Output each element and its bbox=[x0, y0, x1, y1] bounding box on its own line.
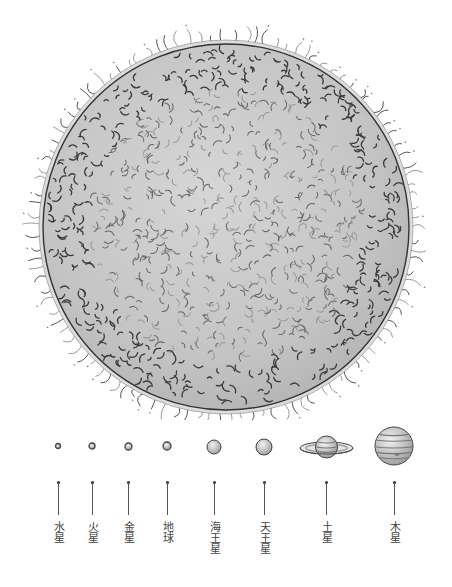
jupiter-icon bbox=[373, 425, 415, 467]
mars-icon bbox=[87, 441, 97, 451]
planet-label-mars: 火星 bbox=[86, 521, 98, 543]
planet-label-uranus: 天王星 bbox=[258, 521, 270, 554]
earth-icon bbox=[161, 440, 173, 452]
planet-label-saturn: 土星 bbox=[320, 521, 332, 543]
neptune-icon bbox=[205, 438, 223, 456]
planet-mars bbox=[87, 441, 97, 451]
leader-line bbox=[394, 482, 395, 515]
uranus-icon bbox=[254, 437, 274, 457]
leader-line bbox=[167, 482, 168, 515]
planet-label-earth: 地球 bbox=[161, 521, 173, 543]
diagram-stage: 水星 火星 金星 地球 海王星 天王星 土星 木星 bbox=[0, 0, 452, 587]
planet-venus bbox=[123, 441, 134, 452]
planet-uranus bbox=[254, 437, 274, 457]
mercury-icon bbox=[53, 441, 63, 451]
planet-mercury bbox=[53, 441, 63, 451]
leader-line bbox=[264, 482, 265, 515]
sun-icon bbox=[0, 0, 452, 420]
leader-line bbox=[326, 482, 327, 515]
leader-line bbox=[92, 482, 93, 515]
planet-label-mercury: 水星 bbox=[52, 521, 64, 543]
planet-neptune bbox=[205, 438, 223, 456]
planet-saturn bbox=[299, 434, 354, 460]
leader-line bbox=[128, 482, 129, 515]
saturn-icon bbox=[299, 434, 354, 460]
planet-jupiter bbox=[373, 425, 415, 467]
planet-earth bbox=[161, 440, 173, 452]
leader-line bbox=[58, 482, 59, 515]
planet-label-neptune: 海王星 bbox=[208, 521, 220, 554]
leader-line bbox=[214, 482, 215, 515]
planet-label-venus: 金星 bbox=[122, 521, 134, 543]
sun-illustration bbox=[0, 0, 452, 420]
venus-icon bbox=[123, 441, 134, 452]
planet-label-jupiter: 木星 bbox=[388, 521, 400, 543]
